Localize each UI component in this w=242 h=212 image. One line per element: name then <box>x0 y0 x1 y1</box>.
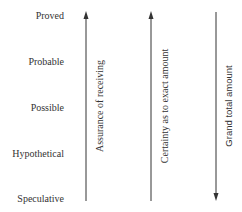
arrow-down-icon <box>214 12 219 201</box>
axis-label-grand-total: Grand total amount <box>223 65 234 146</box>
arrow-up-icon <box>149 11 154 201</box>
axis-label-assurance: Assurance of receiving <box>94 60 105 152</box>
axis-label-certainty: Certainty as to exact amount <box>159 49 170 163</box>
arrow-up-icon <box>84 11 89 201</box>
arrows <box>0 0 242 212</box>
